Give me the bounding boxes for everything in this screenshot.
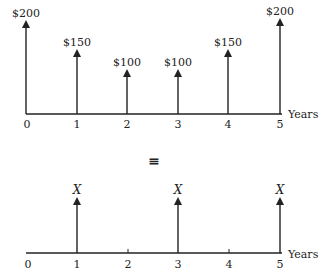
top-tick-4: 4 (225, 118, 232, 131)
top-arrow-year-5: $200 (266, 5, 294, 114)
arrowhead-icon (123, 69, 131, 77)
top-amount-label-3: $100 (164, 56, 192, 69)
top-arrow-year-4: $150 (214, 36, 242, 114)
top-tick-5: 5 (277, 118, 284, 131)
arrowhead-icon (22, 20, 30, 28)
bottom-arrow-year-1: X (72, 183, 82, 253)
arrowhead-icon (73, 49, 81, 57)
top-axis-label: Years (287, 108, 319, 121)
bottom-amount-label-5: X (275, 183, 285, 197)
top-amount-label-0: $200 (12, 7, 40, 20)
bottom-tick-1: 1 (74, 258, 81, 271)
bottom-tick-5: 5 (277, 258, 284, 271)
top-arrow-year-3: $100 (164, 56, 192, 114)
bottom-arrow-year-3: X (173, 183, 183, 253)
arrowhead-icon (276, 197, 284, 205)
arrowhead-icon (174, 69, 182, 77)
bottom-tick-3: 3 (175, 258, 182, 271)
bottom-axis-label: Years (287, 248, 319, 261)
top-amount-label-1: $150 (63, 36, 91, 49)
top-arrow-year-0: $200 (12, 7, 40, 114)
bottom-arrow-year-5: X (275, 183, 285, 253)
bottom-amount-label-1: X (72, 183, 82, 197)
arrowhead-icon (174, 197, 182, 205)
top-tick-1: 1 (74, 118, 81, 131)
top-cash-flow-diagram: $200 $150 $100 $100 $150 $200 0 (12, 5, 319, 131)
top-tick-0: 0 (24, 118, 31, 131)
arrowhead-icon (73, 197, 81, 205)
bottom-cash-flow-diagram: X X X 0 1 2 3 4 5 Years (25, 183, 319, 271)
top-arrow-year-1: $150 (63, 36, 91, 114)
top-amount-label-5: $200 (266, 5, 294, 18)
top-tick-2: 2 (124, 118, 131, 131)
top-arrow-year-2: $100 (113, 56, 141, 114)
top-tick-3: 3 (175, 118, 182, 131)
arrowhead-icon (224, 49, 232, 57)
bottom-tick-4: 4 (226, 258, 233, 271)
bottom-tick-0: 0 (25, 258, 32, 271)
cash-flow-equivalence-diagram: $200 $150 $100 $100 $150 $200 0 (0, 0, 331, 278)
top-amount-label-4: $150 (214, 36, 242, 49)
bottom-amount-label-3: X (173, 183, 183, 197)
bottom-tick-2: 2 (125, 258, 132, 271)
arrowhead-icon (276, 18, 284, 26)
equivalence-symbol: ≡ (148, 153, 160, 169)
top-amount-label-2: $100 (113, 56, 141, 69)
